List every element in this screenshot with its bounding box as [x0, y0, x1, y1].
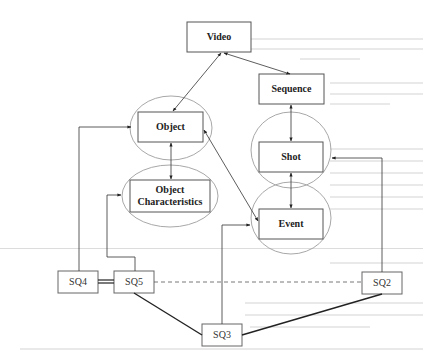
sq3-label: SQ3	[202, 324, 242, 346]
sq5-label: SQ5	[114, 271, 154, 293]
video-label: Video	[187, 22, 251, 52]
diagram-canvas	[0, 0, 423, 362]
edge-object-event	[204, 130, 258, 221]
edge-sq4-object	[79, 127, 131, 271]
object-characteristics-line2: Characteristics	[138, 196, 203, 208]
edge-sq5-sq3	[134, 293, 202, 335]
shot-label: Shot	[259, 142, 323, 172]
edge-sq3-sq2	[242, 294, 382, 335]
edge-sq2-shot	[332, 158, 382, 272]
sequence-label: Sequence	[259, 74, 324, 104]
object-characteristics-line1: Object	[156, 184, 185, 196]
sq2-label: SQ2	[362, 272, 402, 294]
sq4-label: SQ4	[58, 271, 98, 293]
edge-sq3-event	[222, 225, 250, 324]
edge-video-sequence	[224, 53, 290, 74]
event-label: Event	[259, 209, 323, 239]
object-label: Object	[138, 112, 203, 142]
object-characteristics-label: Object Characteristics	[130, 180, 210, 212]
edge-video-object	[173, 53, 221, 111]
